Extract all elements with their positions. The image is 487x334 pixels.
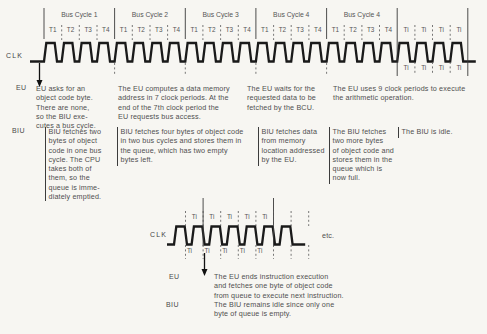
eu-note: The EU uses 9 clock periods to execute t…	[333, 84, 465, 103]
timing-diagram-figure: CLK EU BIU CLK etc. EU The EU ends instr…	[0, 0, 487, 334]
t-state-label: T4	[243, 26, 250, 33]
idle-state-label: Ti	[262, 213, 267, 220]
idle-state-label: Ti	[227, 213, 232, 220]
t-state-label: T2	[208, 26, 215, 33]
t-state-label: T1	[332, 26, 339, 33]
t-state-label: T4	[173, 26, 180, 33]
bus-cycle-label: Bus Cycle 2	[132, 11, 168, 18]
t-state-label: T3	[84, 26, 91, 33]
t-state-label: T2	[279, 26, 286, 33]
bottom-eu-label: EU	[169, 273, 180, 280]
idle-state-label: Ti	[222, 247, 227, 254]
t-state-label: T3	[155, 26, 162, 33]
t-state-label: T2	[67, 26, 74, 33]
bottom-clk-label: CLK	[150, 231, 167, 238]
idle-state-label: Ti	[403, 64, 408, 71]
idle-state-label: Ti	[439, 26, 444, 33]
biu-note: The BIU is idle.	[402, 127, 453, 136]
bus-cycle-label: Bus Cycle 1	[61, 11, 97, 18]
idle-state-label: Ti	[205, 247, 210, 254]
t-state-label: T3	[226, 26, 233, 33]
note-divider-bar	[398, 127, 399, 138]
idle-state-label: Ti	[192, 213, 197, 220]
note-divider-bar	[45, 127, 46, 201]
t-state-label: T3	[296, 26, 303, 33]
idle-state-label: Ti	[456, 64, 461, 71]
note-divider-bar	[117, 127, 118, 166]
top-eu-label: EU	[16, 84, 27, 91]
t-state-label: T4	[102, 26, 109, 33]
t-state-label: T1	[49, 26, 56, 33]
idle-state-label: Ti	[257, 247, 262, 254]
bottom-biu-note: The BIU remains idle since only one byte…	[214, 300, 334, 319]
idle-state-label: Ti	[421, 64, 426, 71]
idle-state-label: Ti	[240, 247, 245, 254]
t-state-label: T3	[367, 26, 374, 33]
idle-state-label: Ti	[456, 26, 461, 33]
idle-state-label: Ti	[439, 64, 444, 71]
idle-state-label: Ti	[245, 213, 250, 220]
bottom-eu-note: The EU ends instruction execution and fe…	[214, 272, 344, 300]
t-state-label: T4	[385, 26, 392, 33]
t-state-label: T1	[261, 26, 268, 33]
down-arrow-icon	[202, 269, 208, 276]
biu-note: BIU fetches four bytes of object code in…	[121, 127, 244, 164]
top-clk-waveform	[30, 43, 476, 62]
note-divider-bar	[329, 127, 330, 184]
biu-note: The BIU fetches two more bytes of object…	[333, 127, 394, 183]
idle-state-label: Ti	[187, 247, 192, 254]
biu-note: BIU fetches data from memory location ad…	[262, 127, 325, 164]
idle-state-label: Ti	[403, 26, 408, 33]
bus-cycle-label: Bus Cycle 4	[273, 11, 309, 18]
top-clk-label: CLK	[6, 52, 23, 59]
t-state-label: T1	[120, 26, 127, 33]
eu-note: EU asks for an object code byte. There a…	[36, 84, 96, 130]
t-state-label: T2	[349, 26, 356, 33]
top-biu-label: BIU	[12, 127, 25, 134]
etc-label: etc.	[322, 231, 334, 240]
note-divider-bar	[258, 127, 259, 166]
idle-state-label: Ti	[209, 213, 214, 220]
t-state-label: T2	[137, 26, 144, 33]
bus-cycle-label: Bus Cycle 4	[344, 11, 380, 18]
bottom-biu-label: BIU	[166, 301, 179, 308]
eu-note: The EU computes a data memory address in…	[118, 84, 230, 121]
eu-note: The EU waits for the requested data to b…	[247, 84, 316, 112]
bottom-clk-waveform	[167, 227, 305, 245]
t-state-label: T4	[314, 26, 321, 33]
idle-state-label: Ti	[421, 26, 426, 33]
bus-cycle-label: Bus Cycle 3	[202, 11, 238, 18]
t-state-label: T1	[190, 26, 197, 33]
biu-note: BIU fetches two bytes of object code in …	[49, 127, 102, 201]
